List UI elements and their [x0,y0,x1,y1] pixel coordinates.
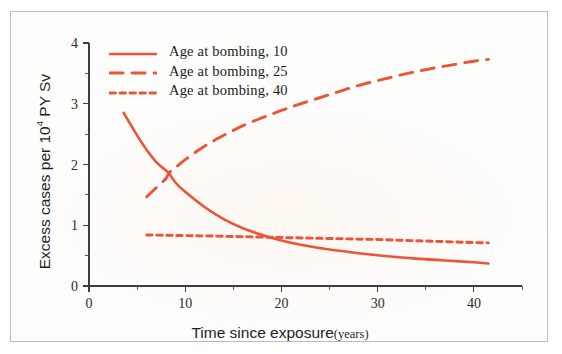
legend-label-1: Age at bombing, 25 [169,63,288,80]
legend-item-0[interactable]: Age at bombing, 10 [109,42,288,62]
x-axis-title: Time since exposure(years) [11,324,549,342]
legend-item-2[interactable]: Age at bombing, 40 [109,81,288,101]
x-tick-label: 30 [371,296,385,311]
legend-label-0: Age at bombing, 10 [169,43,288,60]
y-axis-title: Excess cases per 104 PY Sv [34,32,53,312]
series-line-0 [124,113,489,264]
y-tick-label: 1 [71,218,78,233]
y-axis-title-suffix: PY Sv [36,74,53,121]
y-tick-label: 2 [71,158,78,173]
legend-line-swatch-solid [109,46,157,58]
series-line-2 [147,235,489,243]
legend-line-swatch-dotted [109,85,157,97]
x-axis-title-unit: (years) [334,327,369,341]
y-axis-title-exponent: 4 [34,121,45,126]
y-tick-label: 4 [71,36,78,51]
legend-line-swatch-dashed [109,65,157,77]
x-tick-label: 10 [178,296,192,311]
y-tick-label: 3 [71,97,78,112]
x-tick-label: 20 [274,296,288,311]
screenshot-root: 01234010203040 Excess cases per 104 PY S… [0,0,562,354]
figure-frame: 01234010203040 Excess cases per 104 PY S… [10,11,548,342]
x-tick-label: 0 [86,296,93,311]
y-tick-label: 0 [71,279,78,294]
legend-item-1[interactable]: Age at bombing, 25 [109,62,288,82]
chart-legend: Age at bombing, 10Age at bombing, 25Age … [109,42,288,101]
x-tick-label: 40 [467,296,481,311]
x-axis-title-text: Time since exposure [191,324,333,341]
y-axis-title-prefix: Excess cases per 10 [36,126,53,269]
legend-label-2: Age at bombing, 40 [169,82,288,99]
